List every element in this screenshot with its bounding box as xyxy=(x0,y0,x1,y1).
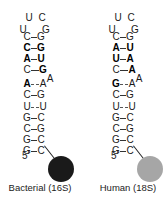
pair-left-nt: C xyxy=(112,90,120,100)
loop-nt-top-right: C xyxy=(127,13,135,23)
pair-right-nt: G xyxy=(37,90,45,100)
pair-left-nt: C xyxy=(112,32,120,42)
pair-right-nt: G xyxy=(126,124,134,134)
bulge-nt: A xyxy=(46,74,54,84)
pair-left-nt: G xyxy=(23,113,31,123)
base-pair-bond xyxy=(120,70,128,71)
pair-left-nt: C xyxy=(23,90,31,100)
pair-right-nt: G xyxy=(126,32,134,42)
pair-right-nt: C xyxy=(126,135,134,145)
pair-right-nt: U xyxy=(128,102,136,112)
pair-right-nt: G xyxy=(37,32,45,42)
base-pair-bond xyxy=(31,107,39,108)
human-18s-panel: U C U G CGAUUACAGACGUUGCCGGCGC A 5' Huma… xyxy=(84,0,168,200)
pair-right-nt: C xyxy=(37,113,45,123)
pair-right-nt: C xyxy=(126,113,134,123)
pair-left-nt: C xyxy=(23,43,31,53)
loop-nt-top-left: U xyxy=(25,13,33,23)
base-pair-bond xyxy=(31,70,39,71)
pair-left-nt: G xyxy=(23,135,31,145)
pair-left-nt: A xyxy=(112,43,120,53)
bulge-nt: A xyxy=(135,74,143,84)
panel-caption: Human (18S) xyxy=(86,182,168,193)
pair-right-nt: G xyxy=(37,124,45,134)
pair-right-nt: C xyxy=(126,146,134,156)
base-pair-bond xyxy=(120,84,128,85)
pair-left-nt: U xyxy=(112,54,120,64)
base-pair-bond xyxy=(120,107,128,108)
base-pair-bond xyxy=(31,84,39,85)
loop-nt-top-left: U xyxy=(114,13,122,23)
pair-right-nt: G xyxy=(37,43,45,53)
pair-left-nt: G xyxy=(112,135,120,145)
loop-nt-top-right: C xyxy=(38,13,46,23)
pair-right-nt: G xyxy=(126,90,134,100)
pair-left-nt: U xyxy=(23,102,31,112)
panel-caption: Bacterial (16S) xyxy=(0,182,82,193)
pair-right-nt: U xyxy=(39,102,47,112)
pair-right-nt: U xyxy=(37,54,45,64)
pair-left-nt: C xyxy=(23,65,31,75)
ribosome-ball-dark xyxy=(48,156,74,182)
pair-left-nt: G xyxy=(112,79,120,89)
pair-right-nt: C xyxy=(37,146,45,156)
pair-left-nt: C xyxy=(23,124,31,134)
pair-left-nt: A xyxy=(23,54,31,64)
pair-left-nt: C xyxy=(23,32,31,42)
five-prime-label: 5' xyxy=(22,151,29,161)
pair-left-nt: C xyxy=(112,65,120,75)
pair-right-nt: C xyxy=(37,135,45,145)
pair-right-nt: A xyxy=(126,54,134,64)
pair-right-nt: U xyxy=(126,43,134,53)
pair-left-nt: U xyxy=(112,102,120,112)
bacterial-16s-panel: U C U G CGCGAUCGAACGUUGCCGGCGC A 5' Bact… xyxy=(0,0,84,200)
five-prime-label: 5' xyxy=(111,151,118,161)
ribosome-ball-gray xyxy=(137,156,163,182)
pair-left-nt: G xyxy=(112,113,120,123)
pair-left-nt: A xyxy=(23,79,31,89)
pair-left-nt: C xyxy=(112,124,120,134)
